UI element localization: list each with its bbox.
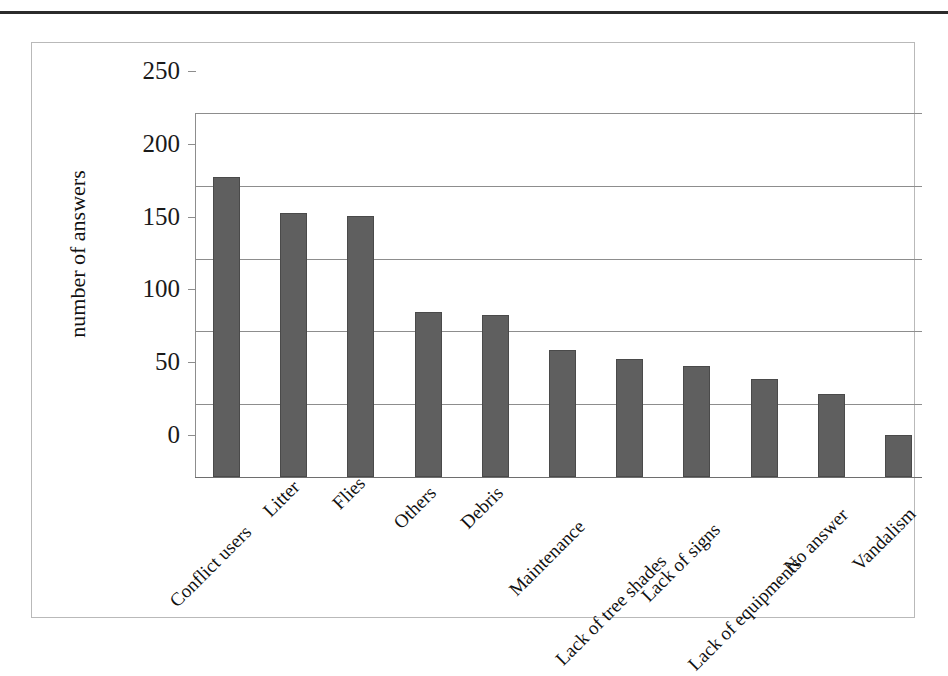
bar[interactable] [482,315,509,477]
chart-figure-frame: number of answers 250200150100500 Confli… [31,42,915,618]
bar[interactable] [213,177,240,477]
x-axis-label-text: Litter [259,477,302,520]
y-tick-100 [188,289,196,290]
x-axis-label: Others [390,483,439,532]
y-tick-label-250: 250 [120,58,180,83]
x-axis-label-text: No answer [780,505,851,576]
y-axis-tick-labels: 250200150100500 [116,43,180,676]
y-axis-title: number of answers [65,170,91,337]
bar[interactable] [347,216,374,477]
x-axis-label-text: Flies [329,473,369,513]
x-axis-label: Flies [329,473,369,513]
y-tick-200 [188,144,196,145]
bar[interactable] [415,312,442,477]
x-axis-label: Vandalism [848,504,918,574]
bar[interactable] [885,435,912,477]
x-axis-label-text: Others [390,483,439,532]
x-axis-label: Debris [457,483,506,532]
y-tick-label-200: 200 [120,131,180,156]
bar[interactable] [683,366,710,477]
y-tick-label-150: 150 [120,204,180,229]
y-tick-50 [188,362,196,363]
x-axis-label-text: Lack of tree shades [552,551,670,669]
x-axis-label: No answer [780,505,851,576]
gridline-200 [195,186,922,187]
x-axis-label-text: Lack of equipments [685,554,805,674]
bar[interactable] [280,213,307,477]
bar[interactable] [751,379,778,477]
top-rule [0,11,948,14]
x-axis-label: Lack of tree shades [552,551,670,669]
x-axis-label-text: Maintenance [505,516,588,599]
x-axis-label: Maintenance [505,516,588,599]
y-tick-label-0: 0 [120,422,180,447]
plot-area [195,113,922,477]
bar[interactable] [616,359,643,477]
y-tick-150 [188,217,196,218]
bar[interactable] [818,394,845,477]
x-axis-label-text: Vandalism [848,504,918,574]
y-tick-0 [188,435,196,436]
y-tick-label-50: 50 [120,349,180,374]
gridline-0 [195,477,922,478]
gridline-250 [195,113,922,114]
x-axis-label: Lack of equipments [685,554,805,674]
y-tick-250 [188,71,196,72]
x-axis-label: Litter [259,477,302,520]
y-tick-label-100: 100 [120,276,180,301]
x-axis-label-text: Debris [457,483,506,532]
bar[interactable] [549,350,576,477]
